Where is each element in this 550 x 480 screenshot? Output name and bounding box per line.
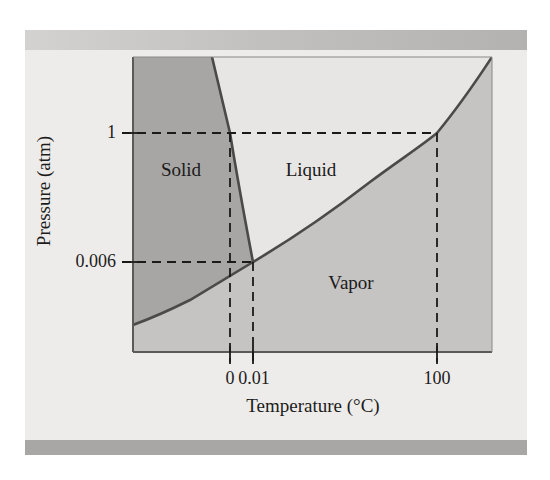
y-axis-title: Pressure (atm) [33, 101, 55, 281]
region-label-solid: Solid [141, 159, 221, 181]
tick-label-x-001: 0.01 [225, 368, 283, 389]
region-label-vapor: Vapor [311, 272, 391, 294]
tick-label-x-100: 100 [412, 368, 462, 389]
tick-label-y-1: 1 [58, 122, 116, 143]
region-label-liquid: Liquid [271, 159, 351, 181]
tick-label-y-0006: 0.006 [48, 251, 116, 272]
x-axis-title: Temperature (°C) [168, 395, 458, 417]
phase-diagram-figure: Solid Liquid Vapor 1 0.006 0 0.01 100 Te… [0, 0, 550, 480]
